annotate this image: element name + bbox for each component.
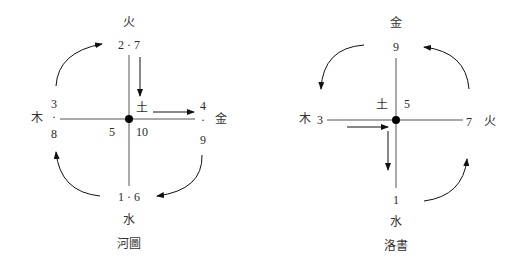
hetu-right-num-top: 4: [200, 100, 206, 112]
hetu-arrow-wood-to-fire: [56, 44, 102, 86]
hetu-right-num-bottom: 9: [200, 134, 206, 146]
luoshu-center-element: 土: [376, 99, 388, 111]
hetu-arrow-water-to-wood: [56, 152, 100, 196]
luoshu-arrow-metal-to-wood: [321, 45, 364, 89]
luoshu-center-dot: [392, 116, 400, 124]
luoshu-diagram: [321, 45, 469, 201]
hetu-caption: 河圖: [117, 238, 141, 250]
hetu-diagram: [56, 44, 202, 196]
luoshu-top-number: 9: [393, 41, 399, 53]
luoshu-right-element: 火: [484, 115, 496, 127]
luoshu-right-number: 7: [466, 116, 472, 128]
hetu-center-num-right: 10: [136, 126, 148, 138]
luoshu-top-element: 金: [390, 17, 402, 29]
hetu-center-num-left: 5: [109, 126, 115, 138]
hetu-left-num-bottom: 8: [51, 128, 57, 140]
hetu-bottom-element: 水: [123, 214, 135, 226]
hetu-right-element: 金: [215, 113, 227, 125]
hetu-left-num-top: 3: [51, 98, 57, 110]
luoshu-left-element: 木: [299, 113, 311, 125]
hetu-right-dot: ·: [201, 114, 205, 126]
luoshu-center-number: 5: [404, 98, 410, 110]
luoshu-caption: 洛書: [384, 240, 408, 252]
hetu-center-dot: [125, 115, 133, 123]
luoshu-bottom-element: 水: [390, 216, 402, 228]
luoshu-bottom-number: 1: [393, 194, 399, 206]
hetu-left-element: 木: [31, 112, 43, 124]
hetu-top-numbers: 2 · 7: [118, 39, 140, 51]
hetu-left-dot: ·: [52, 111, 56, 123]
luoshu-arrow-water-to-fire: [424, 159, 467, 201]
hetu-bottom-numbers: 1 · 6: [118, 191, 140, 203]
hetu-top-element: 火: [123, 16, 135, 28]
hetu-center-element: 土: [136, 102, 148, 114]
diagram-canvas: [0, 0, 517, 267]
luoshu-arrow-fire-to-metal: [424, 47, 469, 89]
hetu-arrow-metal-to-water: [157, 155, 202, 196]
luoshu-left-number: 3: [317, 114, 323, 126]
